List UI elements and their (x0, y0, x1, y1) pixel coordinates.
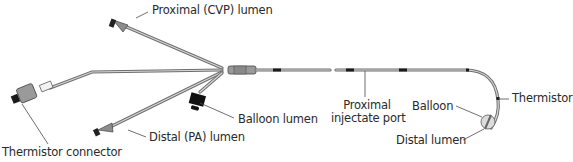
label-proximal-cvp-lumen: Proximal (CVP) lumen (152, 4, 273, 17)
proximal-cvp-branch (109, 19, 222, 68)
label-proximal-injectate-port-line2: injectate port (331, 112, 403, 125)
balloon-tip (481, 115, 495, 129)
label-thermistor-connector: Thermistor connector (2, 146, 122, 159)
label-proximal-injectate-port: Proximal injectate port (331, 99, 403, 125)
catheter-hub (228, 66, 256, 74)
label-balloon: Balloon (412, 100, 453, 113)
label-balloon-lumen: Balloon lumen (238, 113, 318, 126)
label-distal-lumen: Distal lumen (396, 134, 466, 147)
label-thermistor: Thermistor (512, 92, 573, 105)
label-distal-pa-lumen: Distal (PA) lumen (149, 131, 245, 144)
